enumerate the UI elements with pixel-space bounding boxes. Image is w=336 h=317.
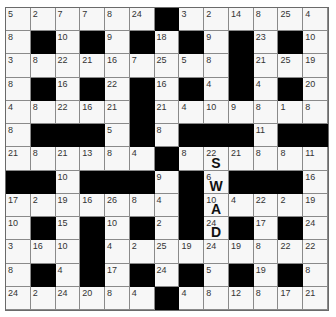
grid-cell[interactable]: 16 <box>105 54 130 77</box>
grid-cell[interactable]: 21 <box>6 147 31 170</box>
grid-cell[interactable]: 7 <box>130 54 155 77</box>
grid-cell[interactable]: 10A <box>204 194 229 217</box>
grid-cell[interactable]: 4 <box>179 101 204 124</box>
grid-cell[interactable]: 22 <box>278 240 303 263</box>
grid-cell[interactable]: 9 <box>105 31 130 54</box>
grid-cell[interactable]: 2 <box>31 8 56 31</box>
grid-cell[interactable]: 10 <box>6 217 31 240</box>
grid-cell[interactable]: 21 <box>80 54 105 77</box>
grid-cell[interactable]: 19 <box>254 264 279 287</box>
grid-cell[interactable]: 10 <box>56 240 81 263</box>
grid-cell[interactable]: 4 <box>56 264 81 287</box>
grid-cell[interactable]: 19 <box>303 194 328 217</box>
grid-cell[interactable]: 21 <box>254 54 279 77</box>
grid-cell[interactable]: 17 <box>6 194 31 217</box>
grid-cell[interactable]: 8 <box>179 147 204 170</box>
grid-cell[interactable]: 19 <box>229 240 254 263</box>
grid-cell[interactable]: 10 <box>56 31 81 54</box>
grid-cell[interactable]: 5 <box>6 8 31 31</box>
grid-cell[interactable]: 4 <box>105 240 130 263</box>
grid-cell[interactable]: 4 <box>130 147 155 170</box>
grid-cell[interactable]: 9 <box>155 171 180 194</box>
grid-cell[interactable]: 16 <box>80 101 105 124</box>
grid-cell[interactable]: 8 <box>204 287 229 310</box>
grid-cell[interactable]: 8 <box>254 8 279 31</box>
grid-cell[interactable]: 14 <box>229 8 254 31</box>
grid-cell[interactable]: 17 <box>278 287 303 310</box>
grid-cell[interactable]: 8 <box>6 124 31 147</box>
grid-cell[interactable]: 20 <box>303 78 328 101</box>
grid-cell[interactable]: 21 <box>303 287 328 310</box>
grid-cell[interactable]: 22 <box>254 194 279 217</box>
grid-cell[interactable]: 2 <box>155 217 180 240</box>
grid-cell[interactable]: 10 <box>204 101 229 124</box>
grid-cell[interactable]: 4 <box>155 194 180 217</box>
grid-cell[interactable]: 16 <box>31 240 56 263</box>
grid-cell[interactable]: 25 <box>278 8 303 31</box>
grid-cell[interactable]: 8 <box>155 124 180 147</box>
grid-cell[interactable]: 19 <box>56 194 81 217</box>
grid-cell[interactable]: 8 <box>105 147 130 170</box>
grid-cell[interactable]: 21 <box>155 101 180 124</box>
grid-cell[interactable]: 8 <box>31 101 56 124</box>
grid-cell[interactable]: 5 <box>179 54 204 77</box>
grid-cell[interactable]: 16 <box>155 78 180 101</box>
grid-cell[interactable]: 22 <box>56 54 81 77</box>
grid-cell[interactable]: 7 <box>56 8 81 31</box>
grid-cell[interactable]: 25 <box>278 54 303 77</box>
grid-cell[interactable]: 8 <box>254 240 279 263</box>
grid-cell[interactable]: 20 <box>80 287 105 310</box>
grid-cell[interactable]: 8 <box>278 147 303 170</box>
grid-cell[interactable]: 19 <box>179 240 204 263</box>
grid-cell[interactable]: 8 <box>31 147 56 170</box>
grid-cell[interactable]: 22 <box>303 240 328 263</box>
grid-cell[interactable]: 2 <box>204 8 229 31</box>
grid-cell[interactable]: 12 <box>229 287 254 310</box>
grid-cell[interactable]: 16 <box>303 171 328 194</box>
grid-cell[interactable]: 15 <box>56 217 81 240</box>
grid-cell[interactable]: 3 <box>179 8 204 31</box>
grid-cell[interactable]: 2 <box>278 194 303 217</box>
grid-cell[interactable]: 8 <box>130 194 155 217</box>
grid-cell[interactable]: 8 <box>6 78 31 101</box>
grid-cell[interactable]: 24 <box>6 287 31 310</box>
grid-cell[interactable]: 8 <box>31 54 56 77</box>
grid-cell[interactable]: 2 <box>130 240 155 263</box>
grid-cell[interactable]: 8 <box>204 54 229 77</box>
grid-cell[interactable]: 5 <box>105 124 130 147</box>
grid-cell[interactable]: 5 <box>204 264 229 287</box>
grid-cell[interactable]: 24 <box>155 264 180 287</box>
grid-cell[interactable]: 2 <box>31 287 56 310</box>
grid-cell[interactable]: 8 <box>6 31 31 54</box>
grid-cell[interactable]: 8 <box>254 101 279 124</box>
grid-cell[interactable]: 8 <box>254 147 279 170</box>
grid-cell[interactable]: 10 <box>303 31 328 54</box>
grid-cell[interactable]: 25 <box>155 240 180 263</box>
grid-cell[interactable]: 4 <box>6 101 31 124</box>
grid-cell[interactable]: 4 <box>179 287 204 310</box>
grid-cell[interactable]: 7 <box>80 8 105 31</box>
grid-cell[interactable]: 22 <box>56 101 81 124</box>
grid-cell[interactable]: 17 <box>105 264 130 287</box>
grid-cell[interactable]: 18 <box>155 31 180 54</box>
grid-cell[interactable]: 1 <box>278 101 303 124</box>
grid-cell[interactable]: 2 <box>31 194 56 217</box>
grid-cell[interactable]: 10 <box>105 217 130 240</box>
grid-cell[interactable]: 24 <box>204 240 229 263</box>
grid-cell[interactable]: 4 <box>130 287 155 310</box>
grid-cell[interactable]: 3 <box>6 54 31 77</box>
grid-cell[interactable]: 3 <box>6 240 31 263</box>
grid-cell[interactable]: 24 <box>303 217 328 240</box>
grid-cell[interactable]: 16 <box>56 78 81 101</box>
grid-cell[interactable]: 8 <box>105 8 130 31</box>
grid-cell[interactable]: 24 <box>130 8 155 31</box>
grid-cell[interactable]: 22S <box>204 147 229 170</box>
grid-cell[interactable]: 4 <box>229 194 254 217</box>
grid-cell[interactable]: 4 <box>303 8 328 31</box>
grid-cell[interactable]: 4 <box>254 78 279 101</box>
grid-cell[interactable]: 8 <box>303 101 328 124</box>
grid-cell[interactable]: 10 <box>56 171 81 194</box>
grid-cell[interactable]: 13 <box>80 147 105 170</box>
grid-cell[interactable]: 24D <box>204 217 229 240</box>
grid-cell[interactable]: 21 <box>105 101 130 124</box>
